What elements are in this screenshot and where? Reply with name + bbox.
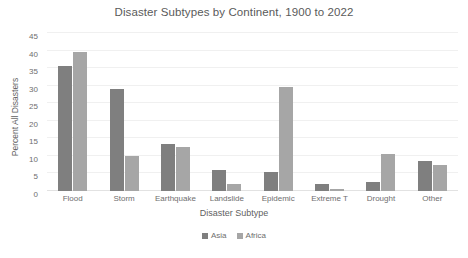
x-axis-tick-label: Storm bbox=[113, 194, 134, 204]
legend-swatch-icon bbox=[237, 233, 243, 239]
bar-group bbox=[201, 33, 252, 191]
bar-group bbox=[253, 33, 304, 191]
bar-africa bbox=[176, 147, 190, 191]
legend-label: Africa bbox=[246, 231, 266, 240]
bar-asia bbox=[418, 161, 432, 191]
bar-asia bbox=[315, 184, 329, 191]
x-axis-tick-label: Epidemic bbox=[262, 194, 295, 204]
bar-africa bbox=[279, 87, 293, 191]
x-axis-tick-label: Other bbox=[422, 194, 442, 204]
bar-group bbox=[47, 33, 98, 191]
bar-asia bbox=[110, 89, 124, 191]
y-axis-tick-labels: 051015202530354045 bbox=[0, 33, 43, 191]
bar-africa bbox=[227, 184, 241, 191]
bar-group bbox=[304, 33, 355, 191]
bar-africa bbox=[125, 156, 139, 191]
x-axis-tick-label: Landslide bbox=[210, 194, 244, 204]
legend-item-africa[interactable]: Africa bbox=[237, 231, 266, 240]
legend-swatch-icon bbox=[202, 233, 208, 239]
bar-africa bbox=[330, 189, 344, 191]
bar-chart: Disaster Subtypes by Continent, 1900 to … bbox=[0, 0, 468, 258]
chart-title: Disaster Subtypes by Continent, 1900 to … bbox=[0, 6, 468, 18]
bar-asia bbox=[161, 144, 175, 191]
bar-group bbox=[355, 33, 406, 191]
x-axis-tick-label: Extreme T bbox=[311, 194, 348, 204]
bar-asia bbox=[212, 170, 226, 191]
plot-area bbox=[47, 33, 458, 191]
x-axis-tick-labels: FloodStormEarthquakeLandslideEpidemicExt… bbox=[47, 194, 458, 208]
bar-asia bbox=[366, 182, 380, 191]
x-axis-tick-label: Drought bbox=[367, 194, 395, 204]
chart-legend: AsiaAfrica bbox=[0, 231, 468, 240]
bar-group bbox=[407, 33, 458, 191]
x-axis-tick-label: Earthquake bbox=[155, 194, 196, 204]
bar-africa bbox=[73, 52, 87, 191]
bar-asia bbox=[264, 172, 278, 191]
bar-africa bbox=[433, 165, 447, 191]
x-axis-tick-label: Flood bbox=[63, 194, 83, 204]
bar-asia bbox=[58, 66, 72, 191]
legend-label: Asia bbox=[211, 231, 227, 240]
bar-group bbox=[98, 33, 149, 191]
legend-item-asia[interactable]: Asia bbox=[202, 231, 227, 240]
bar-africa bbox=[381, 154, 395, 191]
x-axis-title: Disaster Subtype bbox=[0, 208, 468, 218]
bar-group bbox=[150, 33, 201, 191]
